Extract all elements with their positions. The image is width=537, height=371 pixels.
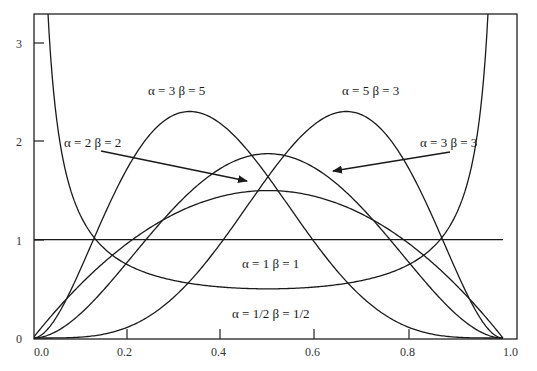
y-axis: 0 1 2 3 bbox=[16, 37, 44, 346]
label-ahbh: α = 1/2 β = 1/2 bbox=[232, 306, 310, 321]
x-tick-label: 0.6 bbox=[305, 345, 320, 359]
label-a5b3: α = 5 β = 3 bbox=[342, 83, 399, 98]
label-a3b5: α = 3 β = 5 bbox=[148, 83, 205, 98]
y-tick-label: 2 bbox=[16, 135, 22, 149]
label-a1b1: α = 1 β = 1 bbox=[242, 256, 299, 271]
x-tick-label: 0.4 bbox=[211, 345, 226, 359]
plot-frame bbox=[34, 14, 517, 339]
arrow-a3b3 bbox=[333, 152, 450, 171]
label-a2b2: α = 2 β = 2 bbox=[64, 135, 121, 150]
x-tick-label: 0.0 bbox=[34, 345, 49, 359]
x-tick-label: 0.2 bbox=[117, 345, 132, 359]
x-tick-label: 1.0 bbox=[503, 345, 518, 359]
beta-distribution-chart: 0 1 2 3 0.0 0.2 0.4 0.6 0.8 1.0 α = 3 β … bbox=[0, 0, 537, 371]
label-a3b3: α = 3 β = 3 bbox=[420, 135, 477, 150]
x-tick-label: 0.8 bbox=[400, 345, 415, 359]
y-tick-label: 1 bbox=[16, 234, 22, 248]
y-tick-label: 0 bbox=[16, 332, 22, 346]
y-tick-label: 3 bbox=[16, 37, 22, 51]
